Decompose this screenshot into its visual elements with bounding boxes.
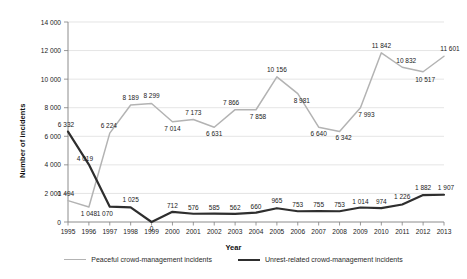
data-label: 585 — [209, 204, 220, 211]
y-tick-label: 14 000 — [41, 19, 62, 26]
x-tick-label: 2000 — [165, 228, 180, 235]
data-label: 8 299 — [143, 92, 160, 99]
data-label: 10 156 — [267, 66, 287, 73]
data-label: 6 342 — [335, 134, 352, 141]
y-tick-label: 4 000 — [44, 161, 61, 168]
data-label: 6 631 — [206, 130, 223, 137]
data-label: 1 014 — [352, 198, 369, 205]
data-label: 10 517 — [415, 76, 435, 83]
y-tick-label: 0 — [57, 219, 61, 226]
x-tick-label: 1995 — [61, 228, 76, 235]
data-label: 6 332 — [58, 121, 75, 128]
data-label: 1 025 — [123, 196, 140, 203]
x-tick-label: 1998 — [123, 228, 138, 235]
data-labels-peaceful: 1 4941 0486 2248 1898 2997 0147 1736 631… — [58, 42, 460, 217]
x-tick-label: 2009 — [353, 228, 368, 235]
x-tick-label: 2013 — [437, 228, 452, 235]
data-label: 562 — [230, 204, 241, 211]
x-tick-label: 2011 — [395, 228, 410, 235]
data-label: 10 832 — [396, 57, 416, 64]
data-label: 6 224 — [101, 122, 118, 129]
y-tick-label: 10 000 — [41, 76, 62, 83]
legend-swatch-unrest-icon — [238, 259, 260, 261]
y-tick-label: 6 000 — [44, 133, 61, 140]
data-label: 712 — [167, 202, 178, 209]
data-label: 8 981 — [294, 97, 311, 104]
data-label: 7 866 — [223, 99, 240, 106]
x-tick-label: 2001 — [186, 228, 201, 235]
x-tick-label: 2005 — [270, 228, 285, 235]
x-tick-label: 2007 — [311, 228, 326, 235]
y-axis-title: Number of incidents — [18, 104, 27, 178]
data-label: 4 019 — [77, 155, 94, 162]
x-tick-label: 2006 — [290, 228, 305, 235]
x-tick-label: 2002 — [207, 228, 222, 235]
data-label: 1 907 — [438, 184, 455, 191]
data-label: 11 601 — [440, 45, 460, 52]
data-label: 6 640 — [311, 130, 328, 137]
x-axis-ticks: 1995199619971998199920002001200220032004… — [61, 222, 452, 235]
data-label: 660 — [251, 203, 262, 210]
data-label: 965 — [271, 197, 282, 204]
x-tick-label: 2004 — [249, 228, 264, 235]
legend-item-peaceful: Peaceful crowd-management incidents — [64, 256, 212, 263]
data-label: 0 — [150, 225, 154, 232]
data-label: 974 — [376, 198, 387, 205]
data-label: 7 993 — [358, 111, 375, 118]
x-tick-label: 2010 — [374, 228, 389, 235]
data-label: 7 858 — [250, 113, 267, 120]
data-label: 1 494 — [58, 190, 75, 197]
legend-swatch-peaceful-icon — [64, 259, 86, 260]
legend-item-unrest: Unrest-related crowd-management incident… — [238, 256, 403, 263]
legend-label-unrest: Unrest-related crowd-management incident… — [265, 256, 403, 263]
data-label: 1 070 — [97, 210, 114, 217]
data-label: 753 — [292, 201, 303, 208]
x-tick-label: 2008 — [332, 228, 347, 235]
legend-label-peaceful: Peaceful crowd-management incidents — [91, 256, 212, 263]
chart-legend: Peaceful crowd-management incidents Unre… — [0, 256, 467, 263]
data-label: 11 842 — [372, 42, 392, 49]
line-chart: 02 0004 0006 0008 00010 00012 00014 0001… — [0, 0, 467, 279]
chart-plot-area: 02 0004 0006 0008 00010 00012 00014 0001… — [0, 0, 467, 279]
y-tick-label: 12 000 — [41, 47, 62, 54]
x-axis-title: Year — [0, 243, 467, 252]
y-tick-label: 8 000 — [44, 104, 61, 111]
data-label: 1 226 — [394, 193, 411, 200]
data-label: 7 014 — [164, 125, 181, 132]
data-label: 576 — [188, 204, 199, 211]
data-label: 1 882 — [415, 184, 432, 191]
x-tick-label: 2012 — [416, 228, 431, 235]
series-line-peaceful — [68, 53, 444, 207]
data-label: 753 — [334, 201, 345, 208]
x-tick-label: 1997 — [102, 228, 117, 235]
data-label: 755 — [313, 201, 324, 208]
data-labels-unrest: 6 3324 0191 0701 02507125765855626609657… — [58, 121, 455, 232]
data-label: 1 048 — [81, 210, 98, 217]
data-label: 7 173 — [185, 109, 202, 116]
data-label: 8 189 — [123, 94, 140, 101]
x-tick-label: 2003 — [228, 228, 243, 235]
x-tick-label: 1996 — [82, 228, 97, 235]
